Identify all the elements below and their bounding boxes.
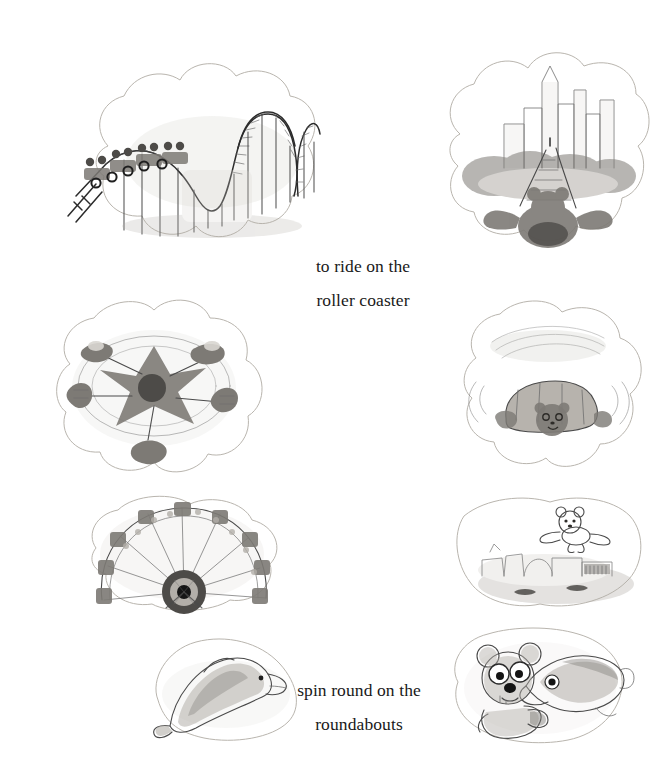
ferris-wheel-sketch <box>78 492 290 616</box>
content-row-4: or see the fish <box>0 622 668 757</box>
roller-coaster-sketch <box>62 50 324 250</box>
teddy-bear-aerial-view-sketch <box>448 492 654 616</box>
content-row-1: to ride on the roller coaster <box>0 36 668 286</box>
teddy-bear-meets-fish-sketch <box>444 624 640 750</box>
content-row-3: go high up on the Ferris wheel <box>0 490 668 618</box>
teddy-bear-city-skyline-sketch <box>424 42 656 254</box>
fish-dolphin-sketch <box>148 628 310 746</box>
teddy-bear-in-roundabout-car-sketch <box>432 294 660 484</box>
picture-book-page: to ride on the roller coaster <box>0 0 668 783</box>
caption-line-1: to ride on the <box>258 249 468 283</box>
content-row-2: spin round on the roundabouts <box>0 288 668 486</box>
roundabout-ride-sketch <box>30 292 274 484</box>
